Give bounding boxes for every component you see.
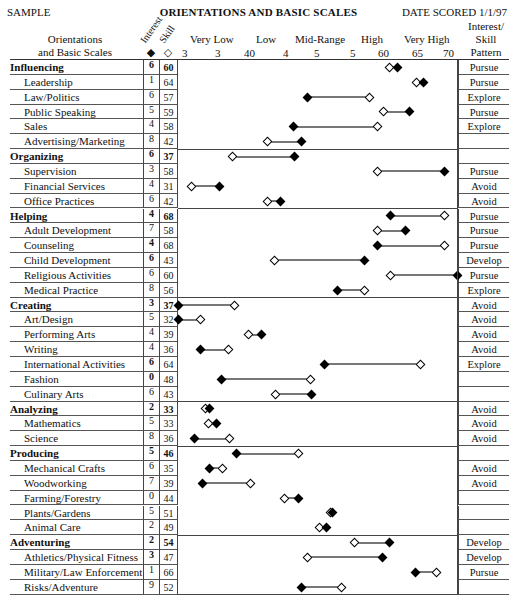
tick: 3 [215,47,221,59]
skill-open-diamond-icon [245,478,255,488]
scale-name: Fashion [10,372,143,387]
orientation-divider [178,401,458,402]
skill-score: 47 [159,550,178,565]
interest-score: 4 [143,119,159,134]
scale-name: Organizing [10,149,143,164]
skill-score: 54 [159,535,178,550]
interest-skill-connector [377,170,444,172]
pattern-header-line3: Pattern [458,46,514,59]
interest-filled-diamond-icon [332,285,342,295]
skill-score: 68 [159,209,178,224]
interest-score: 6 [143,461,159,476]
skill-score: 66 [159,565,178,580]
interest-skill-connector [377,245,444,247]
interest-score: 3 [143,550,159,565]
interest-score: 6 [143,60,159,75]
scale-name: Public Speaking [10,105,143,120]
tick: 3 [182,47,188,59]
date-scored: DATE SCORED 1/1/97 [402,6,507,18]
pattern-cell: Explore [458,283,509,298]
interest-filled-diamond-icon [288,122,298,132]
skill-open-diamond-icon [293,449,303,459]
interest-filled-diamond-icon [189,434,199,444]
interest-filled-diamond-icon [392,62,402,72]
interest-skill-connector [307,556,382,558]
skill-open-diamond-icon [378,107,388,117]
skill-score: 56 [159,283,178,298]
pattern-cell: Pursue [458,268,509,283]
interest-skill-connector [307,96,369,98]
skill-open-diamond-icon [439,211,449,221]
scale-name: Leadership [10,75,143,90]
scale-row: Athletics/Physical Fitness347Develop [10,550,509,565]
interest-score: 3 [143,298,159,313]
interest-filled-diamond-icon [372,241,382,251]
tick: 65 [412,47,423,59]
interest-filled-diamond-icon [319,359,329,369]
orientation-divider [178,535,458,536]
skill-score: 43 [159,387,178,402]
interest-score: 8 [143,283,159,298]
chart-frame [178,60,458,595]
scale-name: Sales [10,119,143,134]
pattern-cell: Pursue [458,75,509,90]
skill-score: 48 [159,372,178,387]
skill-open-diamond-icon [262,137,272,147]
pattern-cell: Avoid [458,402,509,417]
pattern-header-line2: Skill [458,33,514,46]
scale-name: Culinary Arts [10,387,143,402]
pattern-cell [458,446,509,461]
orientations-header-line1: Orientations [0,33,150,46]
interest-score: 6 [143,387,159,402]
skill-score: 58 [159,223,178,238]
pattern-cell: Pursue [458,164,509,179]
skill-open-diamond-icon [372,166,382,176]
interest-score: 3 [143,164,159,179]
band-very-low: Very Low [190,33,234,45]
skill-score: 43 [159,253,178,268]
band-low: Low [256,33,276,45]
scale-name: Risks/Adventure [10,580,143,595]
skill-score: 37 [159,149,178,164]
interest-filled-diamond-icon: ◆ [143,46,159,59]
interest-filled-diamond-icon [293,493,303,503]
pattern-cell: Avoid [458,476,509,491]
pattern-cell: Pursue [458,223,509,238]
skill-open-diamond-icon [270,389,280,399]
interest-score: 5 [143,416,159,431]
chart-bottom-rule [178,594,458,595]
scale-name: Science [10,431,143,446]
scale-name: Farming/Forestry [10,491,143,506]
skill-score: 33 [159,402,178,417]
pattern-cell [458,580,509,595]
interest-skill-connector [178,304,234,306]
interest-score: 4 [143,179,159,194]
skill-score: 60 [159,60,178,75]
interest-filled-diamond-icon [404,107,414,117]
pattern-cell: Explore [458,90,509,105]
skill-score: 46 [159,446,178,461]
pattern-cell: Develop [458,253,509,268]
pattern-cell [458,387,509,402]
pattern-cell: Avoid [458,312,509,327]
interest-skill-connector [274,259,364,261]
scale-name: Medical Practice [10,283,143,298]
interest-score: 6 [143,90,159,105]
skill-open-diamond-icon [269,256,279,266]
tick: 4 [283,47,289,59]
pattern-cell [458,149,509,164]
interest-skill-connector [324,363,420,365]
interest-filled-diamond-icon [231,449,241,459]
scale-name: Art/Design [10,312,143,327]
band-high: High [361,33,383,45]
interest-filled-diamond-icon [216,374,226,384]
scale-name: Adventuring [10,535,143,550]
pattern-cell [458,372,509,387]
tick: 5 [350,47,356,59]
skill-score: 64 [159,357,178,372]
skill-score: 39 [159,476,178,491]
scale-name: Animal Care [10,520,143,535]
scale-name: Plants/Gardens [10,506,143,521]
orientation-divider [178,149,458,150]
pattern-cell [458,506,509,521]
